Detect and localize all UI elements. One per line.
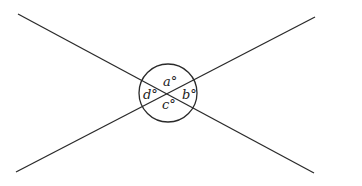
angle-label-b: b° (182, 87, 197, 102)
line-1 (18, 14, 314, 173)
angle-label-d: d° (143, 87, 158, 102)
angle-label-c: c° (162, 97, 176, 112)
angle-label-a: a° (163, 74, 177, 89)
intersecting-lines-diagram: a° b° c° d° (0, 0, 362, 186)
